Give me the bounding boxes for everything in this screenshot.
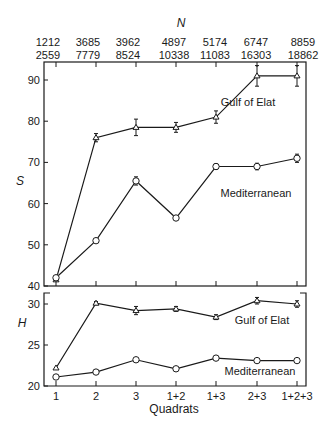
circle-marker xyxy=(93,369,99,375)
circle-marker xyxy=(213,355,219,361)
n-label-row1: 3685 xyxy=(76,36,100,48)
n-label-row2: 11083 xyxy=(200,49,230,61)
y-tick-label: 25 xyxy=(28,339,40,351)
n-label-row1: 4897 xyxy=(162,36,186,48)
circle-marker xyxy=(133,357,139,363)
y-tick-label: 60 xyxy=(28,198,40,210)
n-label-row1: 3962 xyxy=(116,36,140,48)
lower-gulf-label: Gulf of Elat xyxy=(235,314,289,326)
n-label-row2: 10338 xyxy=(159,49,190,61)
y-tick-label: 90 xyxy=(28,74,40,86)
circle-marker xyxy=(213,163,219,169)
top-n-labels: 1212368539624897517467478859255977798524… xyxy=(36,36,319,61)
circle-marker xyxy=(93,237,99,243)
y-tick-label: 20 xyxy=(28,380,40,392)
circle-marker xyxy=(133,178,139,184)
circle-marker xyxy=(173,215,179,221)
n-label-row1: 5174 xyxy=(203,36,227,48)
circle-marker xyxy=(254,357,260,363)
circle-marker xyxy=(173,366,179,372)
y-tick-label: 80 xyxy=(28,115,40,127)
n-label-row2: 8524 xyxy=(116,49,140,61)
upper-gulf-label: Gulf of Elat xyxy=(221,96,275,108)
x-tick-label: 3 xyxy=(133,390,139,402)
triangle-marker xyxy=(93,300,99,305)
n-label-row2: 2559 xyxy=(36,49,60,61)
s-axis-label: S xyxy=(16,174,24,188)
y-tick-label: 30 xyxy=(28,298,40,310)
x-tick-label: 1+2 xyxy=(167,390,186,402)
n-label-row2: 7779 xyxy=(76,49,100,61)
x-tick-label: 1+3 xyxy=(207,390,226,402)
n-label-row2: 18862 xyxy=(288,49,319,61)
circle-marker xyxy=(254,163,260,169)
x-tick-label: 1 xyxy=(53,390,59,402)
lower-med-label: Mediterranean xyxy=(225,365,296,377)
triangle-marker xyxy=(254,298,260,303)
n-label-row2: 16303 xyxy=(241,49,272,61)
n-label-row1: 8859 xyxy=(291,36,315,48)
circle-marker xyxy=(294,155,300,161)
n-label-row1: 6747 xyxy=(244,36,268,48)
y-tick-label: 40 xyxy=(28,280,40,292)
circle-marker xyxy=(53,275,59,281)
upper-y-ticks: 405060708090 xyxy=(28,74,48,292)
n-label-row1: 1212 xyxy=(36,36,60,48)
n-axis-label: N xyxy=(177,16,186,30)
x-tick-label: 2+3 xyxy=(248,390,267,402)
y-tick-label: 70 xyxy=(28,156,40,168)
y-tick-label: 50 xyxy=(28,239,40,251)
circle-marker xyxy=(294,357,300,363)
h-axis-label: H xyxy=(18,316,27,330)
x-axis-label: Quadrats xyxy=(149,402,198,416)
lower-x-ticks: 1231+21+32+31+2+3 xyxy=(53,381,313,402)
triangle-marker xyxy=(53,365,59,370)
x-tick-label: 1+2+3 xyxy=(281,390,312,402)
upper-med-label: Mediterranean xyxy=(221,187,292,199)
x-tick-label: 2 xyxy=(93,390,99,402)
species-diversity-chart: 405060708090 121236853962489751746747885… xyxy=(0,0,336,432)
lower-y-ticks: 202530 xyxy=(28,298,48,392)
circle-marker xyxy=(53,374,59,380)
